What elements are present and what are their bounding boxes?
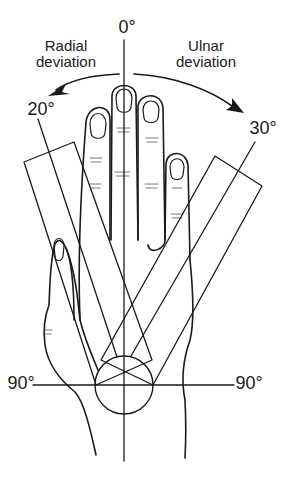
radial-angle-label: 20° <box>24 100 58 119</box>
hand-outline <box>44 86 193 459</box>
radial-goniometer-arm <box>24 142 152 385</box>
diagram-drawing <box>0 0 288 482</box>
ulnar-goniometer-arm <box>101 156 262 385</box>
radial-deviation-label: Radial deviation <box>30 38 102 70</box>
left-90-degree-label: 90° <box>6 374 36 393</box>
right-90-degree-label: 90° <box>234 374 264 393</box>
ulnar-angle-label: 30° <box>246 119 280 138</box>
radial-deviation-arrow <box>48 74 119 96</box>
radial-angle-line <box>38 119 117 357</box>
ulnar-deviation-label: Ulnar deviation <box>170 38 242 70</box>
ulnar-deviation-arrow <box>134 74 244 113</box>
zero-degree-label: 0° <box>112 18 142 37</box>
